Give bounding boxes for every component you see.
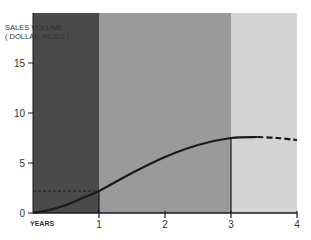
y-tick-label: 0 (19, 208, 25, 219)
shaded-regions (33, 13, 297, 213)
shaded-region-2 (231, 13, 297, 213)
x-tick-label: 1 (96, 219, 102, 230)
y-tick-label: 5 (19, 158, 25, 169)
x-axis-label: YEARS (30, 220, 54, 227)
chart: 051015 1234 SALES VOLUME ( DOLLAR INDEX … (0, 0, 311, 240)
y-axis-label-line2: ( DOLLAR INDEX ) (5, 32, 70, 41)
y-tick-label: 15 (14, 58, 26, 69)
y-ticks: 051015 (14, 58, 34, 219)
y-axis-label-line1: SALES VOLUME (5, 23, 63, 32)
x-tick-label: 2 (162, 219, 168, 230)
x-tick-label: 3 (228, 219, 234, 230)
shaded-region-0 (33, 13, 99, 213)
shaded-region-1 (99, 13, 231, 213)
y-tick-label: 10 (14, 108, 26, 119)
x-ticks: 1234 (96, 211, 300, 230)
x-tick-label: 4 (294, 219, 300, 230)
